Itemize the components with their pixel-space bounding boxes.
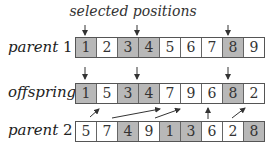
fill-arrow-icon (232, 108, 245, 118)
fill-arrow-icon (112, 109, 160, 118)
fill-arrow-icon (90, 109, 99, 117)
arrows-layer (0, 0, 266, 154)
fill-arrow-icon (155, 109, 180, 118)
